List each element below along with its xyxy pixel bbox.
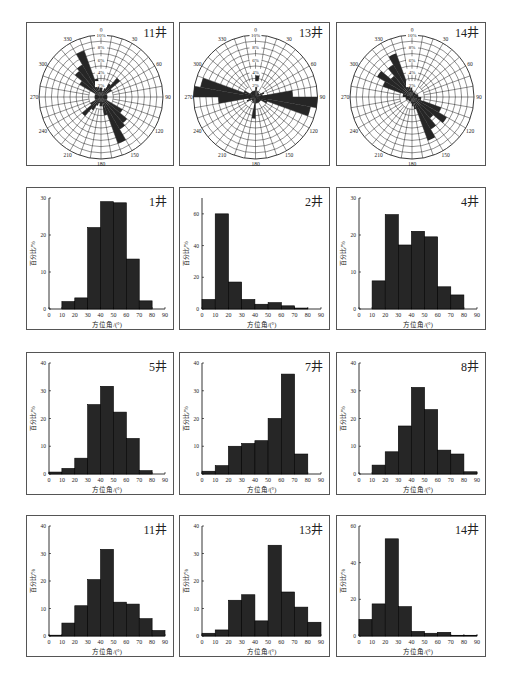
bar-50-60 <box>268 545 281 636</box>
bar-10-20 <box>372 281 385 309</box>
angle-label: 330 <box>218 36 227 42</box>
radial-tick-label: 4% <box>98 70 105 75</box>
y-tick-label: 0 <box>43 633 46 639</box>
x-axis-label: 方位角/(°) <box>92 320 122 329</box>
bar-10-20 <box>62 623 75 636</box>
x-axis-label: 方位角/(°) <box>92 647 122 656</box>
radial-tick-label: 10% <box>96 33 105 38</box>
bar-30-40 <box>242 443 255 474</box>
bar-20-30 <box>385 215 398 309</box>
radial-tick-label: 8% <box>409 45 416 50</box>
bars <box>372 387 477 474</box>
x-tick-label: 60 <box>435 477 441 483</box>
x-tick-label: 50 <box>422 477 428 483</box>
x-tick-label: 80 <box>305 639 311 645</box>
well-title: 4井 <box>461 195 479 209</box>
rose-diagram-11井: 03060901201501802102402703003302%4%6%8%1… <box>26 22 174 166</box>
bar-60-70 <box>281 592 294 636</box>
x-tick-label: 40 <box>98 312 104 318</box>
bar-40-50 <box>411 231 424 309</box>
bar-70-80 <box>451 295 464 309</box>
y-tick-label: 0 <box>353 306 356 312</box>
x-tick-label: 40 <box>408 639 414 645</box>
bar-20-30 <box>75 606 88 636</box>
bar-10-20 <box>372 604 385 636</box>
x-tick-label: 30 <box>239 639 245 645</box>
bar-20-30 <box>385 452 398 474</box>
x-tick-label: 50 <box>265 639 271 645</box>
x-tick-label: 90 <box>474 477 480 483</box>
x-tick-label: 0 <box>201 477 204 483</box>
bar-50-60 <box>113 412 126 474</box>
bar-10-20 <box>215 214 228 309</box>
bar-70-80 <box>451 454 464 474</box>
y-tick-label: 0 <box>353 471 356 477</box>
histogram-13井: 0102030405060708090010203040方位角/(°)百分比/%… <box>179 515 330 657</box>
angle-label: 30 <box>132 36 138 42</box>
x-tick-label: 0 <box>358 312 361 318</box>
y-axis-label: 百分比/% <box>339 406 347 431</box>
bars <box>202 545 321 636</box>
angle-label: 210 <box>374 152 383 158</box>
bar-0-10 <box>49 472 62 474</box>
bar-40-50 <box>255 621 268 636</box>
x-tick-label: 0 <box>48 639 51 645</box>
radial-tick-label: 2% <box>409 83 416 88</box>
bar-30-40 <box>398 426 411 474</box>
bar-70-80 <box>139 471 152 474</box>
well-title: 1井 <box>149 195 167 209</box>
y-tick-label: 40 <box>194 360 200 366</box>
x-tick-label: 50 <box>265 312 271 318</box>
bar-40-50 <box>255 304 268 309</box>
angle-label: 180 <box>97 161 106 167</box>
x-tick-label: 50 <box>265 477 271 483</box>
bar-0-10 <box>202 299 215 309</box>
bar-80-90 <box>308 622 321 636</box>
bar-50-60 <box>425 237 438 309</box>
x-tick-label: 90 <box>318 639 324 645</box>
bars <box>62 202 152 309</box>
x-tick-label: 50 <box>110 477 116 483</box>
well-title: 14井 <box>455 523 479 537</box>
angle-label: 150 <box>285 152 294 158</box>
bar-20-30 <box>75 458 88 474</box>
angle-label: 120 <box>155 128 164 134</box>
well-title: 5井 <box>149 360 167 374</box>
x-tick-label: 90 <box>162 477 168 483</box>
radial-tick-label: 6% <box>252 58 259 63</box>
bar-60-70 <box>126 438 139 474</box>
bar-60-70 <box>438 632 451 636</box>
x-tick-label: 60 <box>123 639 129 645</box>
bar-70-80 <box>295 607 308 636</box>
bar-70-80 <box>139 619 152 636</box>
x-axis-label: 方位角/(°) <box>403 320 433 329</box>
x-tick-label: 80 <box>149 312 155 318</box>
radial-tick-label: 10% <box>251 33 260 38</box>
x-tick-label: 20 <box>225 477 231 483</box>
y-tick-label: 20 <box>194 578 200 584</box>
angle-label: 240 <box>39 128 48 134</box>
y-tick-label: 30 <box>194 551 200 557</box>
x-axis-label: 方位角/(°) <box>247 320 277 329</box>
x-tick-label: 40 <box>98 639 104 645</box>
x-tick-label: 80 <box>461 477 467 483</box>
histogram-5井: 0102030405060708090010203040方位角/(°)百分比/%… <box>26 352 174 495</box>
bar-40-50 <box>101 202 114 309</box>
bar-60-70 <box>438 450 451 474</box>
y-tick-label: 10 <box>194 606 200 612</box>
bar-50-60 <box>113 602 126 636</box>
bar-70-80 <box>295 454 308 474</box>
x-tick-label: 10 <box>369 477 375 483</box>
angle-label: 30 <box>286 36 292 42</box>
y-tick-label: 20 <box>351 232 357 238</box>
x-tick-label: 40 <box>252 477 258 483</box>
y-tick-label: 0 <box>43 306 46 312</box>
y-tick-label: 30 <box>194 388 200 394</box>
well-title: 11井 <box>143 523 167 537</box>
y-tick-label: 10 <box>351 443 357 449</box>
x-axis-label: 方位角/(°) <box>403 485 433 494</box>
y-tick-label: 30 <box>41 195 47 201</box>
bar-10-20 <box>372 465 385 474</box>
x-axis-label: 方位角/(°) <box>247 647 277 656</box>
bar-20-30 <box>228 282 241 309</box>
